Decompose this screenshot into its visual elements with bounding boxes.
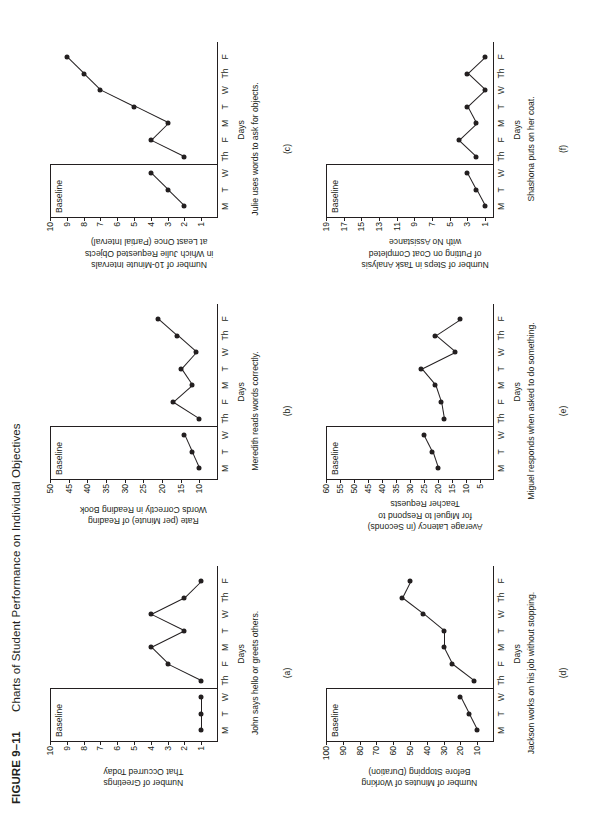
x-tick-label: F (497, 137, 506, 142)
x-tick-label: M (221, 382, 230, 389)
phase-change-line (50, 164, 218, 165)
data-point (474, 154, 479, 159)
y-tick-mark (326, 218, 327, 221)
y-tick-mark (67, 218, 68, 221)
y-tick-mark (184, 218, 185, 221)
data-point (475, 728, 480, 733)
y-tick-label: 5 (445, 222, 454, 227)
x-tick-label: Th (497, 152, 506, 162)
y-axis-line (50, 479, 218, 480)
y-tick-mark (168, 218, 169, 221)
y-tick-mark (106, 480, 107, 483)
chart-panel-c: Number of 10-Minute Intervalsin Which Ju… (36, 18, 312, 280)
y-tick-label: 60 (389, 746, 398, 756)
x-axis-line (493, 42, 494, 218)
data-point (458, 316, 463, 321)
chart-wrapper: Number of 10-Minute Intervalsin Which Ju… (36, 18, 312, 280)
panel-caption: Meredith reads words correctly. (250, 280, 261, 542)
y-tick-mark (427, 742, 428, 745)
data-point (408, 578, 413, 583)
data-line-segment (151, 613, 185, 630)
y-tick-label: 6 (113, 222, 122, 227)
x-tick-label: T (497, 104, 506, 109)
y-axis-title: Rate (per Minute) of ReadingWords Correc… (58, 504, 228, 527)
y-tick-mark (84, 742, 85, 745)
figure-title: Charts of Student Performance on Individ… (10, 423, 22, 712)
y-axis-title: Number of 10-Minute Intervalsin Which Ju… (64, 236, 234, 270)
x-tick-label: T (221, 104, 230, 109)
y-tick-label: 9 (63, 746, 72, 751)
y-tick-label: 20 (158, 484, 167, 494)
panel-letter: (e) (558, 280, 568, 542)
y-tick-mark (396, 480, 397, 483)
y-tick-mark (117, 218, 118, 221)
y-tick-label: 80 (355, 746, 364, 756)
plot-area: 135791113151719MTWThFMTWThFBaseline (326, 42, 494, 218)
data-point (465, 171, 470, 176)
x-tick-label: W (497, 86, 506, 94)
x-tick-label: M (221, 203, 230, 210)
x-tick-label: Th (497, 414, 506, 424)
y-tick-mark (184, 742, 185, 745)
x-tick-label: T (221, 187, 230, 192)
baseline-top-rule (50, 165, 51, 218)
x-tick-label: Th (497, 69, 506, 79)
y-tick-label: 100 (322, 746, 331, 760)
y-tick-mark (414, 218, 415, 221)
panel-caption: Julie uses words to ask for objects. (250, 18, 261, 280)
y-tick-mark (432, 218, 433, 221)
y-tick-mark (344, 218, 345, 221)
x-axis-line (217, 42, 218, 218)
baseline-top-rule (326, 689, 327, 742)
y-tick-label: 1 (197, 222, 206, 227)
x-tick-label: T (221, 628, 230, 633)
y-tick-label: 10 (46, 222, 55, 232)
figure-caption: FIGURE 9–11 Charts of Student Performanc… (10, 423, 22, 804)
baseline-label: Baseline (54, 180, 64, 213)
y-tick-mark (460, 742, 461, 745)
baseline-label: Baseline (330, 180, 340, 213)
data-point (199, 728, 204, 733)
y-axis-line (326, 217, 494, 218)
y-tick-label: 2 (180, 746, 189, 751)
data-point (422, 433, 427, 438)
y-tick-label: 50 (46, 484, 55, 494)
data-line-segment (100, 89, 134, 106)
baseline-label: Baseline (54, 442, 64, 475)
data-point (483, 204, 488, 209)
data-point (419, 366, 424, 371)
data-point (474, 121, 479, 126)
x-tick-label: F (221, 316, 230, 321)
x-tick-label: W (221, 348, 230, 356)
data-point (182, 595, 187, 600)
y-tick-label: 3 (163, 222, 172, 227)
y-tick-mark (368, 480, 369, 483)
x-tick-label: T (221, 366, 230, 371)
plot-area: 101520253035404550MTWThFMTWThFBaseline (50, 304, 218, 480)
y-tick-mark (199, 480, 200, 483)
y-tick-mark (67, 742, 68, 745)
y-axis-title: Number of GreetingsThat Occurred Today (58, 766, 228, 789)
x-tick-label: F (497, 661, 506, 666)
y-tick-label: 2 (180, 222, 189, 227)
y-tick-mark (326, 480, 327, 483)
x-tick-label: M (497, 382, 506, 389)
data-line-segment (151, 139, 185, 156)
x-axis-title: Days (236, 304, 246, 480)
x-tick-label: F (497, 54, 506, 59)
baseline-top-rule (326, 427, 327, 480)
panel-letter: (b) (282, 280, 292, 542)
baseline-top-rule (326, 165, 327, 218)
chart-wrapper: Number of GreetingsThat Occurred Today12… (36, 542, 312, 804)
panel-letter: (c) (282, 18, 292, 280)
phase-change-line (50, 688, 218, 689)
y-tick-label: 15 (448, 484, 457, 494)
y-tick-label: 40 (83, 484, 92, 494)
data-point (132, 104, 137, 109)
y-tick-label: 10 (473, 746, 482, 756)
y-tick-mark (343, 742, 344, 745)
x-tick-label: Th (221, 676, 230, 686)
x-tick-label: W (497, 610, 506, 618)
y-tick-mark (326, 742, 327, 745)
data-point (178, 366, 183, 371)
